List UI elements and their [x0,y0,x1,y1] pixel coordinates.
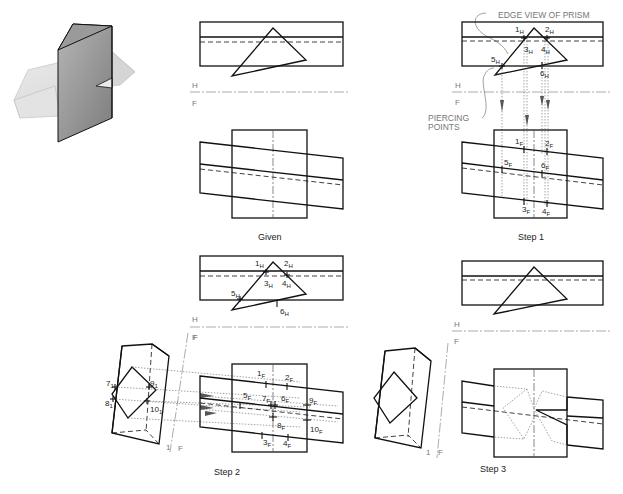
svg-text:1H: 1H [515,25,524,35]
svg-text:6H: 6H [540,69,549,79]
descriptive-geometry-figure: H F Given EDGE VIEW OF PRISM 1H [0,0,623,494]
svg-text:2H: 2H [545,25,554,35]
svg-text:H: H [192,315,198,324]
caption-step2: Step 2 [214,467,240,477]
svg-text:10F: 10F [310,425,323,435]
given-panel: H F Given [190,22,350,242]
svg-text:4H: 4H [282,279,291,289]
fold-label-f: F [192,99,197,108]
svg-text:101: 101 [150,405,163,415]
svg-text:3H: 3H [264,279,273,289]
svg-text:91: 91 [150,379,158,389]
step1-h-labels: 1H 2H 3H 4H 5H 6H [491,25,554,79]
svg-text:9F: 9F [309,396,317,406]
fold-label-h: H [192,81,198,90]
svg-text:F: F [455,98,460,107]
svg-text:H: H [455,81,461,90]
step3-panel: H F 1 F Step 3 [374,261,612,474]
svg-text:7F: 7F [262,394,270,404]
annotation-edge-view: EDGE VIEW OF PRISM [498,10,590,20]
svg-text:81: 81 [105,399,113,409]
svg-text:5F: 5F [504,158,512,168]
svg-text:2H: 2H [284,259,293,269]
caption-step1: Step 1 [518,232,544,242]
svg-text:5H: 5H [231,289,240,299]
svg-text:3F: 3F [522,205,530,215]
svg-text:1F: 1F [257,369,265,379]
svg-text:F: F [438,448,443,457]
svg-text:F: F [193,333,198,342]
svg-text:1: 1 [166,443,171,452]
svg-text:4F: 4F [542,207,550,217]
svg-text:6H: 6H [280,307,289,317]
svg-text:6F: 6F [281,394,289,404]
svg-text:3F: 3F [263,438,271,448]
caption-step3: Step 3 [480,464,506,474]
caption-given: Given [258,232,282,242]
svg-text:3H: 3H [524,45,533,55]
svg-text:71: 71 [106,379,114,389]
svg-text:5H: 5H [491,55,500,65]
svg-text:H: H [454,320,460,329]
svg-text:4H: 4H [541,45,550,55]
svg-text:1H: 1H [255,259,264,269]
annotation-piercing-2: POINTS [428,122,460,132]
svg-text:2F: 2F [545,139,553,149]
svg-text:2F: 2F [285,373,293,383]
pictorial-view [14,24,135,142]
step1-panel: EDGE VIEW OF PRISM 1H 2H 3H 4H 5H 6H H [428,10,612,242]
svg-text:1F: 1F [515,137,523,147]
svg-text:5F: 5F [243,391,251,401]
svg-text:F: F [178,444,183,453]
svg-text:4F: 4F [283,439,291,449]
svg-text:F: F [454,337,459,346]
step2-panel: 1H 2H 3H 4H 5H 6H H F F 1 F 71 81 91 101 [105,256,350,477]
svg-text:1: 1 [426,448,431,457]
svg-text:8F: 8F [277,421,285,431]
